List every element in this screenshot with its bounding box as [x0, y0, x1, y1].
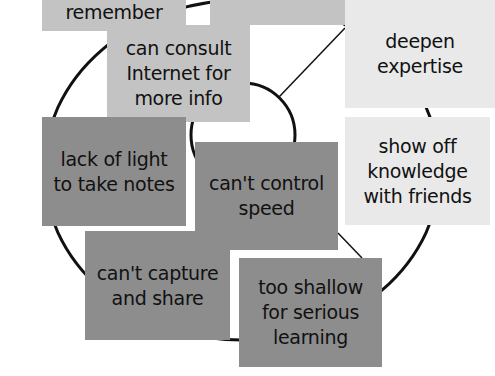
note-text: can't control speed: [209, 171, 324, 221]
note-cant-capture: can't capture and share: [85, 231, 230, 340]
note-text: can consult Internet for more info: [126, 36, 232, 111]
note-top-center: [210, 0, 355, 25]
note-text: lack of light to take notes: [53, 147, 174, 197]
note-text: show off knowledge with friends: [363, 134, 471, 209]
note-too-shallow: too shallow for serious learning: [239, 258, 382, 367]
note-text: remember: [66, 0, 163, 25]
note-deepen-expertise: deepen expertise: [345, 0, 495, 108]
divider-line-upper-right: [279, 28, 345, 97]
divider-line-lower-right: [338, 233, 362, 258]
note-text: too shallow for serious learning: [258, 275, 363, 350]
note-consult-internet: can consult Internet for more info: [107, 25, 250, 122]
note-text: can't capture and share: [97, 261, 219, 311]
note-lack-of-light: lack of light to take notes: [42, 117, 186, 226]
note-show-off: show off knowledge with friends: [345, 117, 490, 225]
note-text: deepen expertise: [377, 29, 463, 79]
